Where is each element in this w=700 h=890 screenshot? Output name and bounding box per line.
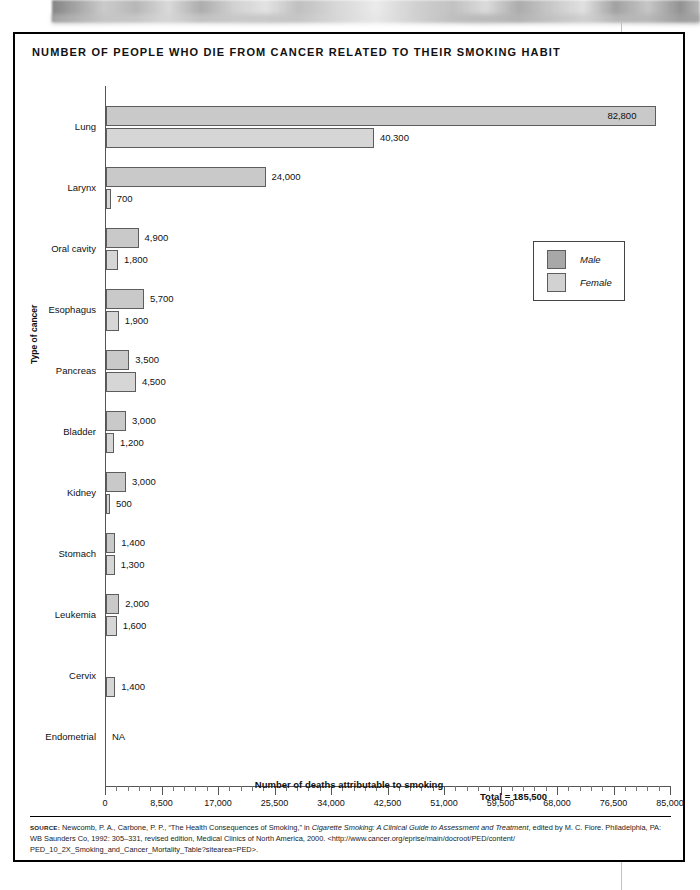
source-prefix: source: <box>30 824 60 831</box>
x-tick-label: 25,500 <box>261 798 289 808</box>
chart-figure-frame: NUMBER OF PEOPLE WHO DIE FROM CANCER REL… <box>13 32 685 862</box>
total-annotation: Total = 185,500 <box>480 791 547 802</box>
x-tick-label: 34,000 <box>317 798 345 808</box>
na-value-label: NA <box>112 731 125 742</box>
y-axis-category-label: Bladder <box>63 426 96 437</box>
y-axis-category-label: Larynx <box>67 182 96 193</box>
bar-value-label: 1,600 <box>123 620 147 631</box>
legend-label-female: Female <box>580 277 612 288</box>
x-tick-label: 8,500 <box>150 798 173 808</box>
bar-female <box>106 128 374 148</box>
chart-legend: Male Female <box>533 241 625 301</box>
bar-female <box>106 372 136 392</box>
x-tick-label: 0 <box>102 798 107 808</box>
source-line1-italic: Cigarette Smoking: A Clinical Guide to A… <box>312 823 529 832</box>
bar-female <box>106 433 114 453</box>
source-line1-a: Newcomb, P. A., Carbone, P. P., “The Hea… <box>60 823 312 832</box>
y-axis-category-label: Endometrial <box>45 731 96 742</box>
bar-female <box>106 250 118 270</box>
bar-male <box>106 106 656 126</box>
y-axis-category-label: Kidney <box>67 487 96 498</box>
x-tick-label: 85,000 <box>656 798 684 808</box>
bar-value-label: 500 <box>116 498 132 509</box>
bar-value-label: 3,000 <box>132 476 156 487</box>
y-axis-category-label: Lung <box>75 121 96 132</box>
x-axis-title: Number of deaths attributable to smoking <box>15 779 683 790</box>
bar-female <box>106 311 119 331</box>
plot-area: Lung82,80040,300Larynx24,000700Oral cavi… <box>105 86 670 796</box>
bar-male <box>106 350 129 370</box>
y-axis-title: Type of cancer <box>29 305 39 364</box>
bar-value-label: 40,300 <box>380 132 409 143</box>
bar-value-label: 5,700 <box>150 293 174 304</box>
x-tick-label: 76,500 <box>600 798 628 808</box>
y-axis-category-label: Stomach <box>59 548 97 559</box>
bar-male <box>106 289 144 309</box>
bar-value-label: 24,000 <box>272 171 301 182</box>
bar-female <box>106 189 111 209</box>
x-tick-label: 51,000 <box>430 798 458 808</box>
bar-value-label: 1,900 <box>125 315 149 326</box>
bar-male <box>106 411 126 431</box>
bar-male <box>106 228 139 248</box>
bar-value-label: 1,300 <box>121 559 145 570</box>
bar-male <box>106 472 126 492</box>
bar-value-label: 4,900 <box>145 232 169 243</box>
y-axis-category-label: Pancreas <box>56 365 96 376</box>
bar-male <box>106 167 266 187</box>
legend-swatch-male-icon <box>547 250 566 269</box>
x-tick-label: 42,500 <box>374 798 402 808</box>
legend-swatch-female-icon <box>547 273 566 292</box>
scanned-page-artifact-strip-lower <box>52 14 700 24</box>
bar-female <box>106 616 117 636</box>
x-tick-label: 68,000 <box>543 798 571 808</box>
bar-value-label: 3,000 <box>132 415 156 426</box>
bar-value-label: 1,400 <box>121 537 145 548</box>
source-line1-b: , edited by M. C. Fiore. <box>529 823 604 832</box>
bar-value-label: 1,400 <box>121 681 145 692</box>
y-axis-category-label: Cervix <box>69 670 96 681</box>
bar-value-label: 1,200 <box>120 437 144 448</box>
bar-female <box>106 677 115 697</box>
x-tick-label: 17,000 <box>204 798 232 808</box>
y-axis-category-label: Esophagus <box>48 304 96 315</box>
bar-female <box>106 555 115 575</box>
bar-value-label: 2,000 <box>125 598 149 609</box>
bar-female <box>106 494 110 514</box>
bar-male <box>106 594 119 614</box>
source-line3: PED_10_2X_Smoking_and_Cancer_Mortality_T… <box>30 845 258 854</box>
y-axis-category-label: Leukemia <box>55 609 96 620</box>
source-citation: source: Newcomb, P. A., Carbone, P. P., … <box>30 822 675 856</box>
bar-value-label: 82,800 <box>607 110 636 121</box>
legend-item-male: Male <box>547 250 601 269</box>
bar-value-label: 1,800 <box>124 254 148 265</box>
source-divider <box>30 816 671 817</box>
y-axis-category-label: Oral cavity <box>51 243 96 254</box>
chart-title: NUMBER OF PEOPLE WHO DIE FROM CANCER REL… <box>32 46 561 58</box>
legend-label-male: Male <box>580 254 601 265</box>
bar-value-label: 700 <box>117 193 133 204</box>
legend-item-female: Female <box>547 273 612 292</box>
bar-value-label: 3,500 <box>135 354 159 365</box>
bar-male <box>106 533 115 553</box>
bar-value-label: 4,500 <box>142 376 166 387</box>
